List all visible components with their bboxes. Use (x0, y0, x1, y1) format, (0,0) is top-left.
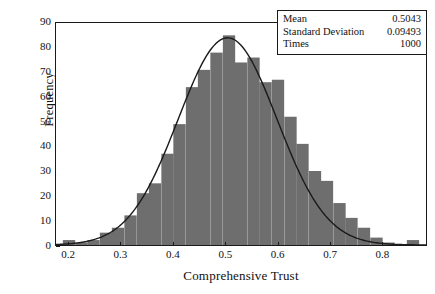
histogram-bar (186, 87, 198, 245)
histogram-bars (63, 35, 419, 245)
stats-row: Times 1000 (283, 38, 421, 51)
x-tick-mark (68, 242, 69, 246)
y-tick-label: 20 (17, 190, 51, 201)
stats-row: Mean 0.5043 (283, 13, 421, 26)
y-tick-label: 50 (17, 116, 51, 127)
x-tick-label: 0.7 (310, 249, 350, 260)
x-tick-label: 0.6 (258, 249, 298, 260)
stats-key: Mean (283, 13, 307, 26)
x-tick-mark (330, 242, 331, 246)
histogram-bar (296, 144, 308, 245)
y-tick-mark (56, 246, 60, 247)
stats-value: 1000 (394, 38, 421, 51)
x-tick-mark (225, 242, 226, 246)
x-tick-label: 0.4 (153, 249, 193, 260)
stats-row: Standard Deviation 0.09493 (283, 26, 421, 39)
histogram-bar (284, 117, 296, 245)
x-tick-mark (120, 242, 121, 246)
y-tick-label: 40 (17, 140, 51, 151)
histogram-bar (345, 218, 357, 245)
histogram-bar (173, 124, 185, 245)
y-tick-label: 60 (17, 91, 51, 102)
y-tick-label: 0 (17, 240, 51, 251)
histogram-bar (259, 82, 271, 245)
x-tick-mark (382, 242, 383, 246)
histogram-bar (198, 70, 210, 245)
y-tick-label: 70 (17, 66, 51, 77)
stats-key: Standard Deviation (283, 26, 364, 39)
histogram-bar (333, 203, 345, 245)
stats-key: Times (283, 38, 309, 51)
histogram-bar (358, 228, 370, 245)
histogram-bar (247, 58, 259, 245)
y-tick-label: 80 (17, 41, 51, 52)
y-tick-label: 10 (17, 215, 51, 226)
histogram-bar (223, 35, 235, 245)
x-tick-label: 0.3 (100, 249, 140, 260)
histogram-canvas (56, 23, 426, 245)
histogram-bar (272, 80, 284, 245)
histogram-bar (235, 62, 247, 245)
x-tick-mark (173, 242, 174, 246)
y-tick-label: 30 (17, 165, 51, 176)
x-axis-label: Comprehensive Trust (55, 268, 427, 284)
x-tick-label: 0.2 (48, 249, 88, 260)
statistics-legend-box: Mean 0.5043 Standard Deviation 0.09493 T… (277, 10, 427, 55)
histogram-bar (137, 193, 149, 245)
plot-area (55, 22, 427, 246)
y-tick-label: 90 (17, 16, 51, 27)
stats-value: 0.09493 (381, 26, 421, 39)
histogram-figure: Frequency 0102030405060708090 0.20.30.40… (0, 0, 435, 294)
histogram-bar (210, 53, 222, 245)
x-tick-label: 0.8 (362, 249, 402, 260)
x-tick-mark (278, 242, 279, 246)
histogram-bar (149, 183, 161, 245)
histogram-bar (161, 154, 173, 245)
x-tick-label: 0.5 (205, 249, 245, 260)
stats-value: 0.5043 (386, 13, 421, 26)
